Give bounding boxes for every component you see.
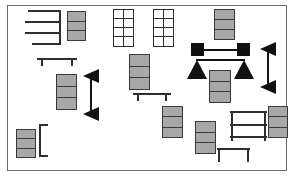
bench-left-upper xyxy=(37,58,77,66)
rack-leg xyxy=(231,111,233,141)
comb-arm xyxy=(32,43,61,45)
bench-leg xyxy=(165,93,167,101)
module-segment xyxy=(130,78,149,89)
module-segment xyxy=(196,122,215,133)
comb-arm xyxy=(25,21,61,23)
arrowhead-icon xyxy=(260,80,276,94)
grid-cell xyxy=(164,37,174,46)
comb-top-left xyxy=(24,10,61,45)
bench-leg xyxy=(71,58,73,66)
arrowhead-icon xyxy=(83,107,99,121)
grid-cell xyxy=(154,10,164,19)
bench-leg xyxy=(137,93,139,101)
grid-cell xyxy=(154,19,164,28)
bench-leg xyxy=(41,58,43,66)
module-lower-mid xyxy=(195,121,216,154)
module-segment xyxy=(269,107,287,117)
dim-arrow-right xyxy=(259,42,277,94)
module-segment xyxy=(68,22,85,32)
arrowhead-icon xyxy=(83,69,99,83)
module-segment xyxy=(57,98,76,109)
bench-bottom-right xyxy=(217,148,250,162)
square-marker xyxy=(191,43,204,56)
bench-center xyxy=(133,93,171,101)
module-segment xyxy=(215,30,234,39)
rack-shelf xyxy=(230,124,267,126)
comb-arm xyxy=(39,124,48,126)
module-segment xyxy=(130,67,149,79)
diagram-canvas xyxy=(0,0,295,178)
module-segment xyxy=(163,107,182,117)
bench-leg xyxy=(247,148,249,162)
module-top-right xyxy=(214,9,235,40)
comb-bottom-left xyxy=(39,124,48,157)
grid-cell xyxy=(124,19,134,28)
module-far-right xyxy=(268,106,288,138)
triangle-marker xyxy=(187,60,207,79)
module-segment xyxy=(57,87,76,99)
module-segment xyxy=(215,20,234,30)
grid-cell xyxy=(154,28,164,37)
module-segment xyxy=(196,143,215,153)
triangle-marker xyxy=(234,60,254,79)
module-segment xyxy=(57,75,76,87)
module-segment xyxy=(269,128,287,137)
module-left-mid xyxy=(56,74,77,110)
module-segment xyxy=(196,133,215,144)
grid-cell xyxy=(154,37,164,46)
module-center xyxy=(129,54,150,90)
comb-arm xyxy=(39,155,48,157)
module-top-left xyxy=(67,11,86,41)
module-segment xyxy=(210,71,230,82)
module-segment xyxy=(210,82,230,93)
rack-leg xyxy=(264,111,266,141)
module-center-lower xyxy=(162,106,183,138)
grid-cell xyxy=(114,28,124,37)
grid-cell xyxy=(164,28,174,37)
module-segment xyxy=(17,139,35,148)
module-segment xyxy=(68,31,85,40)
module-segment xyxy=(163,117,182,127)
module-right-mid xyxy=(209,70,231,103)
grid-cell xyxy=(164,10,174,19)
module-segment xyxy=(130,55,149,67)
module-segment xyxy=(68,12,85,22)
module-bottom-left xyxy=(16,129,36,158)
module-segment xyxy=(215,10,234,20)
comb-arm xyxy=(28,10,61,12)
grid-cell xyxy=(124,10,134,19)
comb-spine xyxy=(39,124,41,157)
comb-arm xyxy=(25,32,61,34)
grid-unit-right xyxy=(153,9,174,47)
arrowhead-icon xyxy=(260,42,276,56)
grid-cell xyxy=(114,37,124,46)
grid-cell xyxy=(124,37,134,46)
grid-cell xyxy=(124,28,134,37)
grid-cell xyxy=(164,19,174,28)
grid-cell xyxy=(114,19,124,28)
module-segment xyxy=(17,130,35,139)
module-segment xyxy=(269,117,287,127)
grid-cell xyxy=(114,10,124,19)
rack-shelf xyxy=(230,111,267,113)
module-segment xyxy=(210,92,230,102)
square-marker xyxy=(237,43,250,56)
floorplan-frame xyxy=(7,5,287,171)
dim-arrow-left xyxy=(82,69,100,121)
square-connector-top xyxy=(191,43,250,56)
bench-leg xyxy=(218,148,220,162)
comb-spine xyxy=(59,10,61,45)
bench-top xyxy=(217,148,250,150)
grid-unit-left xyxy=(113,9,134,47)
module-segment xyxy=(163,128,182,137)
module-segment xyxy=(17,149,35,157)
rack-lower-right xyxy=(230,111,267,141)
rack-shelf xyxy=(230,136,267,138)
